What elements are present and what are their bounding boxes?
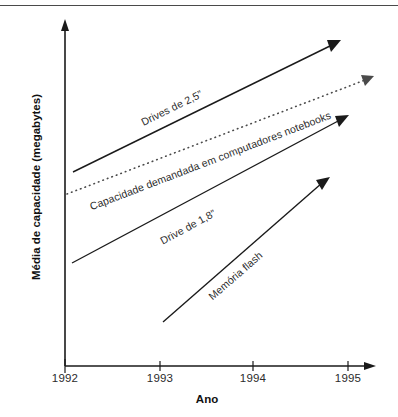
x-tick-label-1992: 1992 [52, 372, 78, 384]
series-line-drives-2-5 [73, 40, 341, 172]
series-line-capacidade-demandada [67, 75, 374, 194]
x-axis [65, 362, 376, 370]
chart-figure: 1992 1993 1994 1995 Ano Média de capacid… [0, 0, 398, 417]
x-axis-title: Ano [196, 393, 218, 405]
x-tick-label-1993: 1993 [147, 372, 173, 384]
chart-plot-area [0, 0, 398, 417]
x-tick-label-1994: 1994 [240, 372, 266, 384]
y-axis-title: Média de capacidade (megabytes) [30, 94, 42, 280]
y-axis [61, 19, 69, 366]
x-tick-label-1995: 1995 [335, 372, 361, 384]
series-line-drive-1-8 [72, 115, 349, 263]
series-line-memoria-flash [163, 177, 330, 322]
